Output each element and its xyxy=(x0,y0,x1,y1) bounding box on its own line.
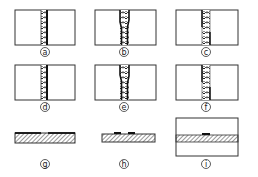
figure-diagram: a b c d e xyxy=(0,0,258,177)
panel-b: b xyxy=(95,10,156,57)
label-f: f xyxy=(205,103,208,112)
label-g: g xyxy=(42,160,47,169)
label-a: a xyxy=(43,48,48,57)
label-d: d xyxy=(42,103,47,112)
panel-c: c xyxy=(176,10,238,57)
panel-d: d xyxy=(15,65,75,112)
label-i: i xyxy=(205,160,207,169)
label-c: c xyxy=(204,48,208,57)
label-h: h xyxy=(121,160,126,169)
label-b: b xyxy=(121,48,126,57)
panel-f: f xyxy=(176,65,238,112)
panel-i: i xyxy=(176,118,238,169)
label-e: e xyxy=(122,103,127,112)
panel-h: h xyxy=(102,132,155,169)
panel-g: g xyxy=(15,133,75,169)
panel-a: a xyxy=(15,10,75,57)
panel-e: e xyxy=(95,65,156,112)
